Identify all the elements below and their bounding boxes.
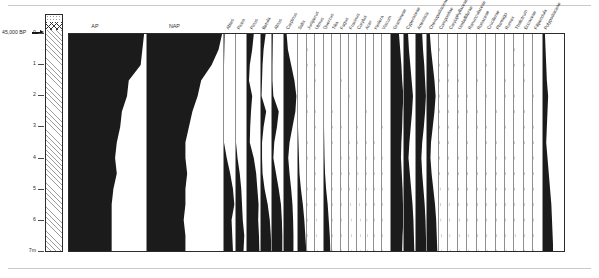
depth-tick-label: 2 <box>33 93 36 98</box>
taxon-column-juniperus[interactable] <box>307 34 315 251</box>
taxon-label-row: APNAPAbiesPiceaPinusBetulaAlnusCarpinusS… <box>68 0 565 33</box>
depth-tick <box>38 33 44 34</box>
pollen-diagram-figure: 45,000 BP 01234567m APNAPAbiesPiceaPinus… <box>0 0 599 278</box>
depth-tick <box>38 95 44 96</box>
taxon-column-acer[interactable] <box>366 34 374 251</box>
taxon-column-umbelliferae[interactable] <box>458 34 467 251</box>
taxon-column-picea[interactable] <box>236 34 248 251</box>
taxon-column-artemisia[interactable] <box>416 34 428 251</box>
taxon-column-viscum[interactable] <box>382 34 390 251</box>
taxon-label-nap: NAP <box>169 24 180 29</box>
taxon-label-salix: Salix <box>298 20 307 31</box>
taxon-column-plantago[interactable] <box>496 34 505 251</box>
taxon-columns <box>69 34 564 251</box>
taxon-column-ranunculaceae[interactable] <box>467 34 476 251</box>
taxon-column-tilia[interactable] <box>332 34 340 251</box>
depth-tick <box>38 251 44 252</box>
taxon-silhouette <box>298 34 306 251</box>
depth-tick-label: 5 <box>33 186 36 191</box>
taxon-column-ap[interactable] <box>69 34 147 251</box>
taxon-silhouette <box>391 34 403 251</box>
depth-tick <box>38 64 44 65</box>
taxon-column-caryophyllaceae[interactable] <box>448 34 457 251</box>
taxon-silhouette <box>543 34 553 251</box>
taxon-column-corylus[interactable] <box>357 34 365 251</box>
taxon-column-fraxinus[interactable] <box>349 34 357 251</box>
taxon-silhouette <box>147 34 222 251</box>
taxon-silhouette <box>236 34 244 251</box>
taxon-silhouette <box>272 34 282 251</box>
taxon-label-betula: Betula <box>262 17 272 31</box>
taxon-column-carpinus[interactable] <box>284 34 298 251</box>
taxon-column-quercus[interactable] <box>324 34 332 251</box>
depth-tick <box>38 158 44 159</box>
taxon-silhouette <box>69 34 144 251</box>
depth-tick-label: 4 <box>33 155 36 160</box>
taxon-column-thalictrum[interactable] <box>514 34 523 251</box>
depth-axis: 01234567m <box>30 33 44 251</box>
depth-tick-label: 6 <box>33 217 36 222</box>
taxon-column-cruciferae[interactable] <box>486 34 495 251</box>
taxon-column-nap[interactable] <box>147 34 225 251</box>
depth-tick <box>38 220 44 221</box>
taxon-label-ap: AP <box>91 24 98 29</box>
taxon-column-gramineae[interactable] <box>391 34 405 251</box>
taxon-silhouette <box>324 34 330 251</box>
bottom-divider-rule <box>8 268 591 269</box>
taxon-label-polypodiaceae: Polypodiaceae <box>544 2 562 31</box>
depth-tick <box>38 126 44 127</box>
taxon-column-rumex[interactable] <box>505 34 514 251</box>
taxon-column-polypodiaceae[interactable] <box>543 34 553 251</box>
taxon-label-alnus: Alnus <box>274 19 283 31</box>
depth-tick-label: 7m <box>29 248 36 253</box>
taxon-label-pinus: Pinus <box>250 19 259 31</box>
depth-tick-label: 0 <box>33 30 36 35</box>
taxon-column-fagus[interactable] <box>341 34 349 251</box>
depth-tick-label: 1 <box>33 62 36 67</box>
taxon-silhouette <box>427 34 437 251</box>
taxon-silhouette <box>416 34 426 251</box>
pollen-curves-frame <box>68 33 565 252</box>
taxon-column-hedera[interactable] <box>374 34 382 251</box>
radiocarbon-date-label: 45,000 BP <box>2 30 26 35</box>
taxon-label-acer: Acer <box>365 20 373 31</box>
taxon-column-ulmus[interactable] <box>315 34 323 251</box>
taxon-column-filipendula[interactable] <box>533 34 542 251</box>
depth-tick <box>38 189 44 190</box>
lithology-column <box>45 14 63 252</box>
depth-tick-label: 3 <box>33 124 36 129</box>
lithology-band-hatch-band <box>46 30 62 251</box>
taxon-column-rosaceae[interactable] <box>477 34 486 251</box>
lithology-band-diamond-band <box>46 22 62 30</box>
taxon-column-compositae[interactable] <box>439 34 448 251</box>
taxon-label-abies: Abies <box>225 19 234 31</box>
taxon-column-cyperaceae[interactable] <box>404 34 416 251</box>
taxon-silhouette <box>404 34 414 251</box>
taxon-label-picea: Picea <box>237 19 246 31</box>
taxon-column-abies[interactable] <box>224 34 236 251</box>
taxon-column-salix[interactable] <box>298 34 307 251</box>
taxon-silhouette <box>224 34 234 251</box>
taxon-silhouette <box>284 34 296 251</box>
taxon-silhouette <box>261 34 271 251</box>
taxon-column-pinus[interactable] <box>247 34 261 251</box>
taxon-column-chenopodiaceae[interactable] <box>427 34 439 251</box>
taxon-column-betula[interactable] <box>261 34 273 251</box>
lithology-band-stipple-band <box>46 15 62 22</box>
taxon-silhouette <box>247 34 259 251</box>
taxon-column-ericaceae[interactable] <box>524 34 533 251</box>
taxon-column-alnus[interactable] <box>272 34 284 251</box>
